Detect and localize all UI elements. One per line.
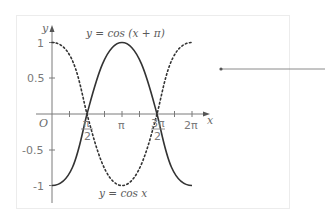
y-tick-label-1: 1 xyxy=(37,37,44,50)
curve-label-cos-x-plus-pi: y = cos (x + π) xyxy=(85,27,165,39)
svg-text:2: 2 xyxy=(84,130,91,143)
chart-panel xyxy=(17,16,290,209)
y-tick-label-neg-0.5: -0.5 xyxy=(22,144,43,157)
svg-text:3π: 3π xyxy=(151,117,165,130)
x-tick-label-2pi: 2π xyxy=(184,119,198,132)
x-axis-label: x xyxy=(207,114,214,127)
svg-text:π: π xyxy=(83,117,90,130)
y-axis-label: y xyxy=(41,22,49,35)
origin-label: O xyxy=(39,117,48,130)
x-tick-label-pi: π xyxy=(118,119,125,132)
curve-label-cos-x: y = cos x xyxy=(98,187,147,199)
leader-dot xyxy=(219,67,222,70)
cosine-graph: y x O 1 0.5 -0.5 -1 π 2 π 3π 2 2π y = co… xyxy=(0,0,325,218)
y-tick-label-neg-1: -1 xyxy=(33,180,44,193)
y-tick-label-0.5: 0.5 xyxy=(27,72,45,85)
svg-text:2: 2 xyxy=(154,130,161,143)
